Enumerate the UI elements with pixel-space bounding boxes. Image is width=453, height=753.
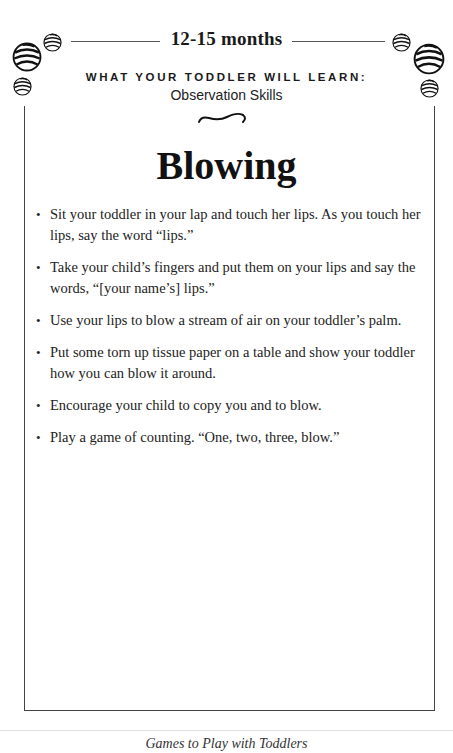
skill-name: Observation Skills — [0, 87, 453, 103]
list-item: Play a game of counting. “One, two, thre… — [36, 427, 426, 448]
footer-divider — [0, 730, 453, 731]
age-range-heading: 12-15 months — [0, 28, 453, 50]
list-item: Encourage your child to copy you and to … — [36, 395, 426, 416]
list-item: Put some torn up tissue paper on a table… — [36, 342, 426, 384]
list-item: Use your lips to blow a stream of air on… — [36, 310, 426, 331]
footer-book-title: Games to Play with Toddlers — [0, 736, 453, 752]
steps-list: Sit your toddler in your lap and touch h… — [36, 204, 426, 459]
list-item: Take your child’s fingers and put them o… — [36, 257, 426, 299]
learn-label: WHAT YOUR TODDLER WILL LEARN: — [0, 71, 453, 83]
list-item: Sit your toddler in your lap and touch h… — [36, 204, 426, 246]
